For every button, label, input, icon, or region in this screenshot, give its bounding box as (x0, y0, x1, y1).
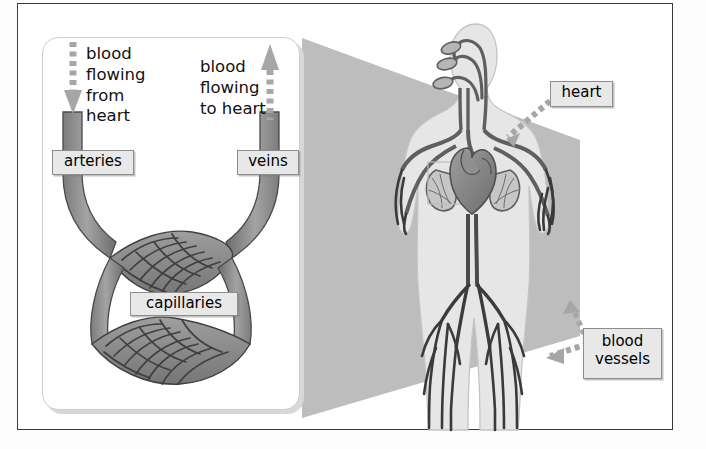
veins-label-chip[interactable]: veins (237, 150, 299, 175)
figure-description: Left inset panel shows blood flow throug… (0, 0, 1, 1)
figure-stage: blood flowing from heart blood flowing t… (0, 0, 706, 449)
arteries-flow-caption: blood flowing from heart (86, 44, 156, 127)
blood-vessels-label-chip[interactable]: blood vessels (583, 328, 662, 379)
artery-flow-arrow-icon (62, 40, 86, 118)
heart-pointer-arrow (480, 95, 560, 160)
heart-label-chip[interactable]: heart (550, 81, 613, 107)
veins-flow-caption: blood flowing to heart (200, 57, 276, 119)
arteries-label-chip[interactable]: arteries (52, 150, 134, 175)
upper-capillary-bed (110, 231, 233, 294)
capillaries-label-chip[interactable]: capillaries (130, 292, 238, 316)
lower-capillary-bed (92, 317, 250, 384)
